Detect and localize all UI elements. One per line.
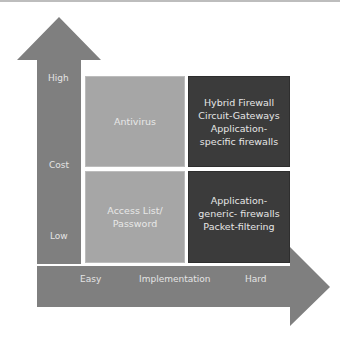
quadrant-text: specific firewalls bbox=[198, 135, 279, 148]
quadrant-top-left-antivirus: Antivirus bbox=[85, 76, 185, 167]
quadrant-text: Antivirus bbox=[114, 115, 156, 128]
y-axis-title: Cost bbox=[49, 160, 69, 170]
quadrant-text: Hybrid Firewall bbox=[198, 96, 279, 109]
y-axis-low-label: Low bbox=[50, 231, 68, 241]
quadrant-text: generic- firewalls bbox=[198, 207, 279, 220]
quadrant-text: Password bbox=[107, 217, 162, 230]
quadrant-text: Application- bbox=[198, 194, 279, 207]
quadrant-bottom-left-access-list: Access List/ Password bbox=[85, 171, 185, 263]
quadrant-text: Circuit-Gateways bbox=[198, 109, 279, 122]
quadrant-bottom-right-packet-filtering: Application- generic- firewalls Packet-f… bbox=[188, 171, 290, 263]
quadrant-text: Access List/ bbox=[107, 204, 162, 217]
y-axis-high-label: High bbox=[48, 73, 69, 83]
x-axis-title: Implementation bbox=[139, 274, 210, 284]
quadrant-top-right-hybrid-firewall: Hybrid Firewall Circuit-Gateways Applica… bbox=[188, 76, 290, 167]
quadrant-text: Packet-filtering bbox=[198, 220, 279, 233]
x-axis-hard-label: Hard bbox=[245, 274, 267, 284]
quadrant-text: Application- bbox=[198, 122, 279, 135]
x-axis-easy-label: Easy bbox=[80, 274, 101, 284]
